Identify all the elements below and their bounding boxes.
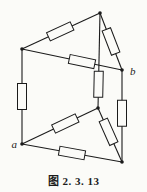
node-b [120, 68, 124, 72]
resistor-a-bottom_right [58, 146, 85, 159]
resistor-top_left-a [18, 84, 27, 110]
node-a [20, 142, 24, 146]
node-bottom_right [120, 160, 124, 164]
circuit-diagram: ab [0, 0, 147, 192]
resistor-top-b [102, 28, 120, 55]
resistor-top-mid [94, 71, 104, 97]
terminal-label-a: a [12, 138, 18, 150]
figure-2-3-13: ab 图 2. 3. 13 [0, 0, 147, 192]
resistor-top_left-top [47, 22, 74, 41]
resistor-top_left-b [68, 55, 95, 69]
node-mid [96, 106, 100, 110]
resistor-a-mid [52, 114, 79, 133]
node-top_left [20, 47, 24, 51]
terminal-label-b: b [130, 65, 136, 77]
node-top [98, 11, 102, 15]
resistor-b-bottom_right [118, 100, 127, 126]
figure-caption: 图 2. 3. 13 [0, 172, 147, 188]
resistor-mid-bottom_right [99, 118, 118, 145]
